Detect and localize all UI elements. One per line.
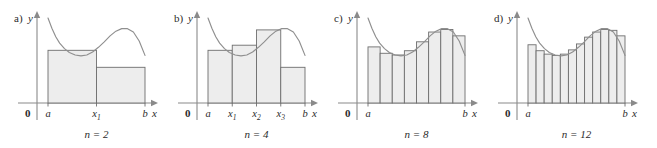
panel-label: b)	[174, 12, 184, 25]
panel-caption: n = 8	[405, 128, 429, 140]
x-tick-label: x1	[227, 108, 236, 122]
bar	[536, 51, 544, 103]
x-axis-arrow-icon	[471, 100, 478, 106]
bar	[257, 30, 281, 103]
y-axis-label: y	[187, 12, 193, 24]
x-tick-label: b	[302, 108, 307, 119]
x-tick-label: b	[142, 108, 147, 119]
panel-label: c)	[334, 12, 343, 25]
bar	[453, 36, 465, 103]
y-axis-label: y	[27, 12, 33, 24]
panel-caption: n = 2	[85, 128, 109, 140]
bar	[380, 53, 392, 103]
x-tick-subscript: 2	[257, 113, 261, 122]
x-tick-subscript: 1	[233, 113, 237, 122]
bar	[281, 67, 305, 103]
bar	[392, 55, 404, 103]
bar	[208, 50, 232, 103]
x-axis-arrow-icon	[631, 100, 638, 106]
x-tick-subscript: 1	[97, 113, 101, 122]
bar	[97, 67, 146, 103]
origin-label: 0	[345, 107, 351, 119]
panel-d: abd)yx0n = 12	[480, 0, 645, 148]
x-tick-label: a	[525, 108, 530, 119]
y-axis-label: y	[347, 12, 353, 24]
panel-label: a)	[14, 12, 23, 25]
panel-a-canvas: ax1ba)yx0n = 2	[0, 0, 165, 148]
x-tick-subscript: 3	[280, 113, 285, 122]
bar	[368, 47, 380, 103]
x-axis-arrow-icon	[151, 100, 158, 106]
bar	[560, 54, 568, 103]
panel-c-canvas: abc)yx0n = 8	[320, 0, 485, 148]
x-axis-label: x	[151, 107, 157, 119]
panel-label: d)	[494, 12, 504, 25]
bars-group	[528, 29, 625, 103]
panel-b-canvas: ax1x2x3bb)yx0n = 4	[160, 0, 325, 148]
bar	[404, 51, 416, 103]
y-axis-label: y	[507, 12, 513, 24]
bar	[601, 29, 609, 103]
x-tick-label: b	[622, 108, 627, 119]
bar	[417, 42, 429, 103]
bar	[552, 55, 560, 103]
y-axis-arrow-icon	[194, 11, 200, 18]
y-axis-arrow-icon	[514, 11, 520, 18]
bars-group	[48, 50, 145, 103]
bar	[441, 29, 453, 103]
x-tick-label: x3	[276, 108, 286, 122]
panel-a: ax1ba)yx0n = 2	[0, 0, 165, 148]
panel-d-canvas: abd)yx0n = 12	[480, 0, 645, 148]
x-tick-label: x1	[91, 108, 100, 122]
bar	[528, 45, 536, 103]
bar	[429, 32, 441, 103]
bars-group	[368, 29, 465, 103]
x-axis-label: x	[631, 107, 637, 119]
bar	[48, 50, 97, 103]
panel-c: abc)yx0n = 8	[320, 0, 485, 148]
origin-label: 0	[185, 107, 191, 119]
x-axis-label: x	[471, 107, 477, 119]
y-axis-arrow-icon	[34, 11, 40, 18]
origin-label: 0	[505, 107, 511, 119]
x-tick-label: a	[205, 108, 210, 119]
bar	[577, 44, 585, 103]
bar	[232, 45, 256, 103]
panel-b: ax1x2x3bb)yx0n = 4	[160, 0, 325, 148]
bar	[568, 50, 576, 103]
origin-label: 0	[25, 107, 31, 119]
riemann-sum-figure: ax1ba)yx0n = 2ax1x2x3bb)yx0n = 4abc)yx0n…	[0, 0, 657, 148]
x-tick-label: b	[462, 108, 467, 119]
bar	[585, 37, 593, 103]
bar	[544, 54, 552, 103]
bar	[609, 30, 617, 103]
x-tick-label: a	[365, 108, 370, 119]
x-tick-label: a	[45, 108, 50, 119]
bars-group	[208, 30, 305, 103]
x-axis-label: x	[311, 107, 317, 119]
y-axis-arrow-icon	[354, 11, 360, 18]
x-axis-arrow-icon	[311, 100, 318, 106]
panel-caption: n = 12	[562, 128, 592, 140]
x-tick-label: x2	[251, 108, 261, 122]
panel-caption: n = 4	[245, 128, 269, 140]
bar	[593, 32, 601, 103]
